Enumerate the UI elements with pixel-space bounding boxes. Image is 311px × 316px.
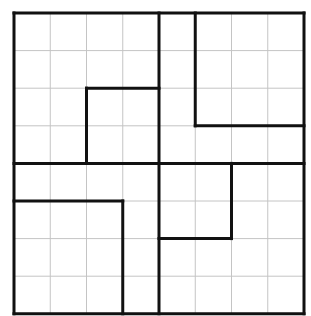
partition-grid (0, 0, 311, 316)
region-borders (14, 13, 304, 314)
